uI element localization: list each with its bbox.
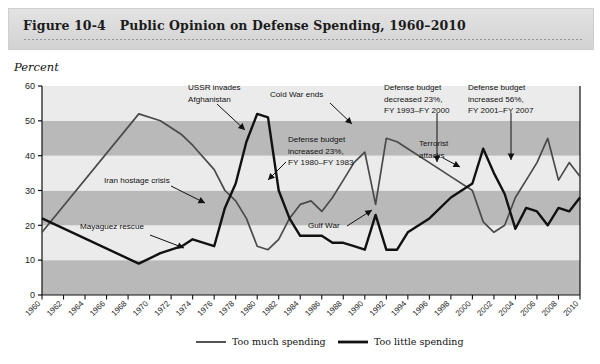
- svg-text:1988: 1988: [325, 299, 344, 318]
- svg-text:Defense budget: Defense budget: [384, 83, 442, 92]
- band-0-10: [42, 260, 580, 295]
- svg-text:1978: 1978: [217, 299, 236, 318]
- svg-text:60: 60: [25, 81, 35, 91]
- svg-text:40: 40: [25, 151, 35, 161]
- svg-text:1992: 1992: [368, 299, 387, 318]
- chart-legend: Too much spendingToo little spending: [196, 336, 463, 347]
- svg-text:1982: 1982: [260, 299, 279, 318]
- svg-text:Defense budget: Defense budget: [468, 83, 526, 92]
- svg-text:increased 23%,: increased 23%,: [288, 147, 344, 156]
- svg-text:1960: 1960: [23, 299, 42, 318]
- svg-text:10: 10: [25, 255, 35, 265]
- svg-text:Cold War ends: Cold War ends: [270, 90, 323, 99]
- svg-text:2004: 2004: [497, 299, 516, 318]
- svg-text:20: 20: [25, 221, 35, 231]
- svg-text:1980: 1980: [239, 299, 258, 318]
- svg-text:2002: 2002: [475, 299, 494, 318]
- y-axis-ticks: 0102030405060: [25, 81, 42, 300]
- svg-text:1968: 1968: [110, 299, 129, 318]
- x-axis-tick-labels: 1960196219641966196819701972197419761978…: [23, 299, 580, 318]
- svg-text:1976: 1976: [196, 299, 215, 318]
- svg-text:decreased 23%,: decreased 23%,: [384, 95, 443, 104]
- svg-text:Terrorist: Terrorist: [419, 139, 449, 148]
- svg-text:1986: 1986: [303, 299, 322, 318]
- x-tick-marks: [42, 295, 580, 300]
- svg-text:2000: 2000: [454, 299, 473, 318]
- svg-text:1966: 1966: [88, 299, 107, 318]
- legend-label-too_little: Too little spending: [374, 336, 463, 347]
- svg-text:1994: 1994: [389, 299, 408, 318]
- svg-text:2006: 2006: [518, 299, 537, 318]
- chart-plot-area: 0102030405060 19601962196419661968197019…: [0, 0, 600, 364]
- legend-item-too_much: Too much spending: [196, 336, 326, 347]
- svg-text:FY 1980–FY 1983: FY 1980–FY 1983: [288, 158, 354, 167]
- legend-item-too_little: Too little spending: [338, 336, 463, 347]
- svg-text:Mayaguez rescue: Mayaguez rescue: [80, 222, 144, 231]
- svg-text:1962: 1962: [45, 299, 64, 318]
- svg-text:1974: 1974: [174, 299, 193, 318]
- svg-text:Defense budget: Defense budget: [288, 135, 346, 144]
- defense-spending-line-chart: 0102030405060 19601962196419661968197019…: [0, 0, 600, 364]
- svg-text:1970: 1970: [131, 299, 150, 318]
- svg-text:FY 2001–FY 2007: FY 2001–FY 2007: [468, 106, 534, 115]
- background-bands: [42, 86, 580, 295]
- svg-text:0: 0: [30, 290, 35, 300]
- svg-text:1972: 1972: [153, 299, 172, 318]
- svg-text:1964: 1964: [67, 299, 86, 318]
- svg-text:Gulf War: Gulf War: [308, 221, 340, 230]
- svg-text:50: 50: [25, 116, 35, 126]
- svg-text:2008: 2008: [540, 299, 559, 318]
- legend-label-too_much: Too much spending: [232, 336, 326, 347]
- svg-text:1990: 1990: [346, 299, 365, 318]
- svg-text:USSR invades: USSR invades: [188, 83, 241, 92]
- svg-text:attacks: attacks: [419, 151, 445, 160]
- svg-text:30: 30: [25, 186, 35, 196]
- svg-text:increased 56%,: increased 56%,: [468, 95, 524, 104]
- svg-text:FY 1993–FY 2000: FY 1993–FY 2000: [384, 106, 450, 115]
- svg-text:Iran hostage crisis: Iran hostage crisis: [104, 176, 170, 185]
- svg-text:1984: 1984: [282, 299, 301, 318]
- svg-text:1996: 1996: [411, 299, 430, 318]
- svg-text:1998: 1998: [432, 299, 451, 318]
- svg-text:Afghanistan: Afghanistan: [188, 95, 231, 104]
- svg-text:2010: 2010: [561, 299, 580, 318]
